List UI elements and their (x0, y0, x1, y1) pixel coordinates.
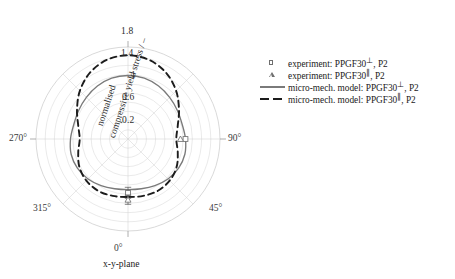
radial-tick-1-8: 1.8 (121, 26, 133, 36)
angle-label-90: 90° (228, 133, 241, 143)
square-marker-icon (258, 57, 288, 69)
chart-legend: experiment: PPGF30⊥, P2 experiment: PPGF… (258, 57, 453, 105)
polar-chart-figure: 0.2 0.6 1 1.4 1.8 0° 45° 90° 270° 315° n… (0, 0, 455, 279)
angle-label-270: 270° (9, 133, 27, 143)
legend-text-pre: micro-mech. model: PPGF30 (288, 95, 397, 105)
solid-line-icon (258, 81, 288, 93)
legend-text-post: , P2 (401, 95, 415, 105)
angle-label-0: 0° (114, 243, 123, 253)
legend-label-model-para: micro-mech. model: PPGF30∥, P2 (288, 91, 416, 107)
angle-label-45: 45° (209, 203, 222, 213)
experiment-marker-square (183, 137, 188, 142)
dashed-line-icon (258, 93, 288, 105)
angle-label-315: 315° (33, 203, 51, 213)
legend-row-model-para: micro-mech. model: PPGF30∥, P2 (258, 93, 453, 105)
triangle-marker-icon (258, 69, 288, 81)
radial-tick-0-2: 0.2 (122, 115, 134, 125)
plot-caption: x-y-plane (103, 259, 139, 269)
